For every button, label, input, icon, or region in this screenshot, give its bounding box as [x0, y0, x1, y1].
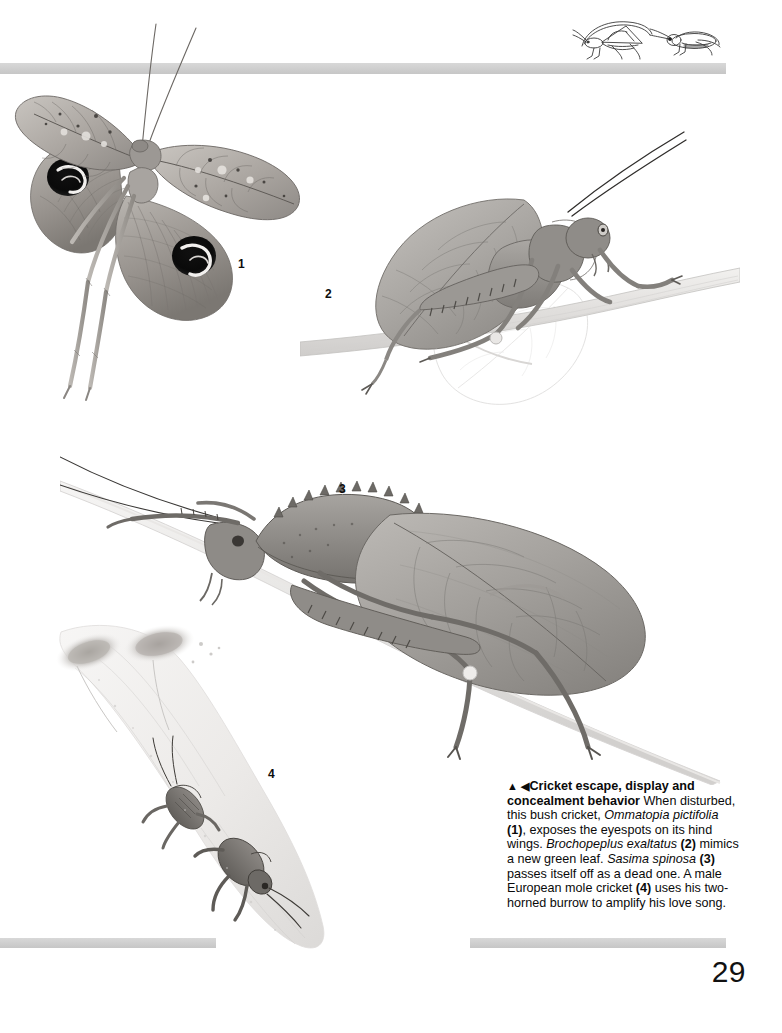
forewing-right-leaf: [152, 145, 300, 219]
figure-2-illustration: [300, 130, 740, 420]
figure-caption: ▲ ◀Cricket escape, display and concealme…: [507, 779, 739, 910]
hindwing-right: [116, 196, 233, 320]
figure-label-1: 1: [238, 258, 245, 270]
forewing-dead-leaf: [355, 513, 645, 695]
bush-cricket-line-icon: [573, 22, 652, 59]
caption-species-3: Sasima spinosa: [607, 852, 696, 866]
figure-label-4: 4: [268, 768, 275, 780]
book-page: 1 2 3 4 ▲ ◀Cricket escape, display and c…: [0, 0, 782, 1033]
figure-4-illustration: [55, 610, 355, 955]
forewing-left-leaf: [15, 96, 138, 176]
figure-label-3: 3: [339, 483, 346, 495]
header-icon-group: [572, 12, 742, 64]
body: [128, 140, 161, 203]
caption-ref-3: (3): [696, 852, 715, 866]
burrow-soil: [60, 625, 324, 948]
triangle-up-icon: ▲: [507, 780, 518, 792]
caption-ref-1: (1): [507, 823, 522, 837]
grasshopper-line-icon: [650, 29, 720, 55]
caption-ref-2: (2): [677, 837, 696, 851]
caption-species-2: Brochopeplus exaltatus: [546, 837, 677, 851]
page-number: 29: [712, 955, 746, 989]
figure-label-2: 2: [325, 288, 332, 300]
caption-ref-4: (4): [636, 881, 651, 895]
caption-species-1: Ommatopia pictifolia: [604, 808, 718, 822]
figure-1-illustration: [0, 20, 330, 410]
rule-bottom-right: [470, 938, 726, 948]
